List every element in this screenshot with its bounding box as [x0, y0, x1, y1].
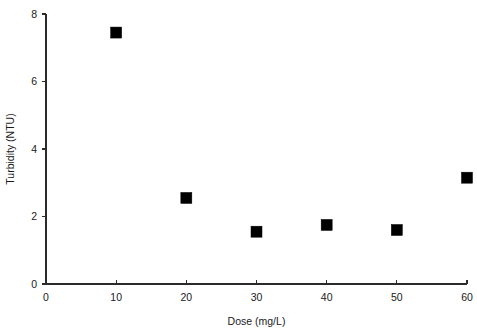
- chart-canvas: 02468 0102030405060 Dose (mg/L) Turbidit…: [0, 0, 477, 334]
- data-point-marker: [391, 225, 402, 236]
- x-tick-label: 60: [461, 291, 473, 303]
- y-axis-title: Turbidity (NTU): [4, 113, 16, 184]
- y-axis-ticks: 02468: [31, 8, 46, 290]
- data-point-marker: [251, 226, 262, 237]
- x-axis-title: Dose (mg/L): [228, 315, 286, 327]
- y-tick-label: 2: [31, 210, 37, 222]
- data-point-marker: [462, 172, 473, 183]
- x-tick-label: 0: [43, 291, 49, 303]
- y-tick-label: 0: [31, 278, 37, 290]
- scatter-chart: 02468 0102030405060 Dose (mg/L) Turbidit…: [0, 0, 477, 334]
- data-point-marker: [111, 27, 122, 38]
- x-tick-label: 50: [391, 291, 403, 303]
- x-tick-label: 30: [251, 291, 263, 303]
- y-tick-label: 8: [31, 8, 37, 20]
- data-point-group: [111, 27, 473, 237]
- x-tick-label: 40: [321, 291, 333, 303]
- x-tick-label: 20: [180, 291, 192, 303]
- y-tick-label: 6: [31, 75, 37, 87]
- data-point-marker: [321, 219, 332, 230]
- x-tick-label: 10: [110, 291, 122, 303]
- axes-group: [46, 14, 467, 284]
- y-tick-label: 4: [31, 143, 37, 155]
- data-point-marker: [181, 192, 192, 203]
